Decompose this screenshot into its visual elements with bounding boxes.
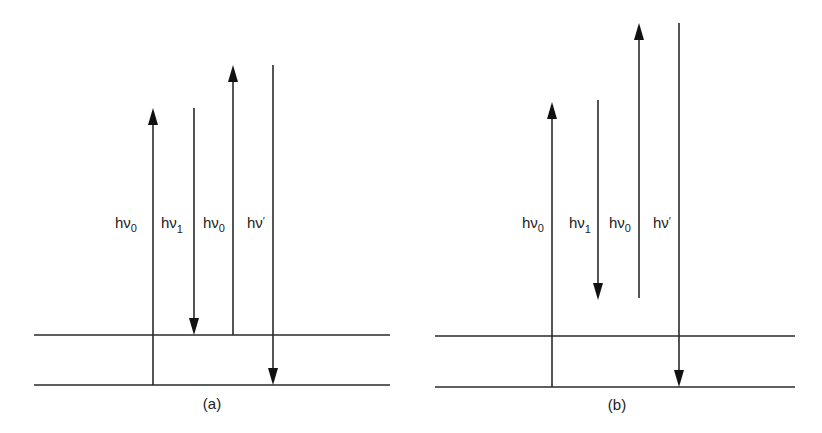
arrow-h-nu-0-up-1 [148,108,158,385]
caption-b: (b) [608,396,626,413]
arrow-h-nu-0-up-2 [228,65,238,335]
label-a-h-nu-1: hν1 [161,214,183,235]
arrowhead-up-icon [228,65,238,82]
label-b-h-nu-0-second: hν0 [609,214,631,234]
arrow-h-nu-prime-down [674,23,684,387]
arrow-h-nu-0-up-2 [634,23,644,298]
label-b-h-nu-0-first: hν0 [522,214,544,234]
arrowhead-up-icon [547,102,557,119]
panel-b [435,23,795,387]
label-a-h-nu-prime: hν′ [247,214,265,231]
arrowhead-down-icon [593,283,603,300]
label-a-h-nu-0-first: hν0 [115,214,137,234]
arrow-h-nu-0-up-1 [547,102,557,387]
arrow-h-nu-1-down [593,100,603,300]
label-b-h-nu-prime: hν′ [653,214,671,231]
arrowhead-up-icon [148,108,158,125]
label-b-h-nu-1: hν1 [569,214,591,235]
label-a-h-nu-0-second: hν0 [203,214,225,234]
caption-a: (a) [203,395,221,412]
arrowhead-up-icon [634,23,644,40]
arrow-h-nu-prime-down [268,65,278,385]
arrowhead-down-icon [674,370,684,387]
arrowhead-down-icon [268,368,278,385]
raman-energy-diagram: hν0 hν1 hν0 hν′ hν0 hν1 hν0 hν′ (a) (b) [0,0,822,433]
arrow-h-nu-1-down [189,108,199,335]
arrowhead-down-icon [189,318,199,335]
